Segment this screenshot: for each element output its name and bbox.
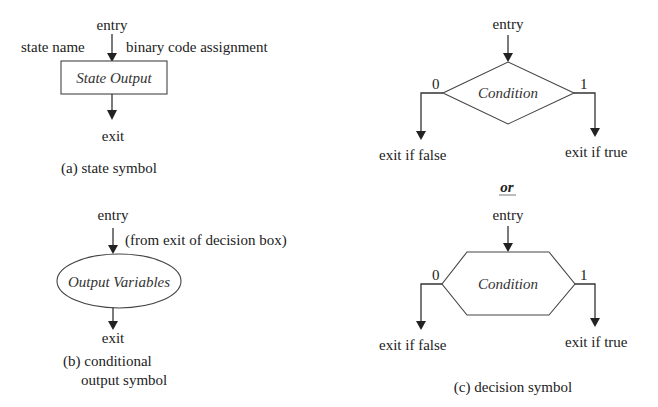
arrowhead-down-icon [416, 321, 426, 330]
or-separator: or [499, 179, 516, 195]
diamond-true-exit-line [574, 93, 595, 130]
arrowhead-down-icon [416, 131, 426, 140]
conditional-caption-line1: (b) conditional [63, 353, 152, 370]
state-symbol-caption: (a) state symbol [61, 160, 157, 177]
state-box-text: State Output [76, 70, 152, 86]
diamond-entry-label: entry [493, 16, 524, 32]
diamond-condition-text: Condition [478, 85, 538, 101]
arrowhead-down-icon [590, 318, 600, 327]
conditional-entry-note: (from exit of decision box) [125, 232, 287, 249]
hexagon-true-exit-label: exit if true [565, 334, 628, 350]
hexagon-condition-text: Condition [478, 276, 538, 292]
decision-hexagon-group: entry Condition 0 1 exit if false exit i… [379, 207, 628, 396]
hexagon-false-exit-line [421, 284, 442, 323]
diamond-false-exit-line [421, 93, 443, 133]
decision-symbol-caption: (c) decision symbol [454, 379, 572, 396]
arrowhead-down-icon [503, 243, 513, 252]
state-name-label: state name [21, 39, 85, 55]
diamond-true-value: 1 [580, 76, 588, 92]
state-exit-label: exit [102, 128, 125, 144]
arrowhead-down-icon [108, 321, 118, 330]
state-entry-label: entry [97, 17, 128, 33]
state-symbol-group: entry state name binary code assignment … [21, 17, 268, 177]
asm-chart-symbols-diagram: entry state name binary code assignment … [0, 0, 658, 407]
hexagon-false-exit-label: exit if false [379, 337, 447, 353]
conditional-ellipse-text: Output Variables [68, 274, 170, 290]
decision-diamond-group: entry Condition 0 1 exit if false exit i… [379, 16, 628, 163]
conditional-caption-line2: output symbol [81, 372, 167, 388]
hexagon-entry-label: entry [493, 207, 524, 223]
diamond-false-exit-label: exit if false [379, 147, 447, 163]
conditional-entry-label: entry [98, 207, 129, 223]
hexagon-true-exit-line [575, 284, 595, 320]
hexagon-true-value: 1 [580, 267, 588, 283]
arrowhead-down-icon [107, 110, 117, 120]
arrowhead-down-icon [108, 245, 118, 254]
arrowhead-down-icon [503, 53, 513, 62]
diamond-true-exit-label: exit if true [565, 144, 628, 160]
conditional-exit-label: exit [102, 330, 125, 346]
binary-code-label: binary code assignment [126, 39, 268, 55]
hexagon-false-value: 0 [432, 267, 440, 283]
conditional-output-group: entry (from exit of decision box) Output… [57, 207, 287, 388]
arrowhead-down-icon [590, 128, 600, 137]
or-label: or [500, 179, 514, 195]
diamond-false-value: 0 [432, 76, 440, 92]
